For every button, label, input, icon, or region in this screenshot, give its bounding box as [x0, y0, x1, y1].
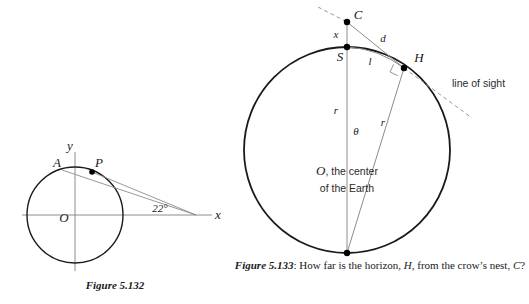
segment-label-r-radial: r [381, 116, 386, 128]
right-angle-marker [390, 64, 398, 75]
figure-5-133-caption-sep: : [294, 259, 297, 271]
figure-5-132-caption-label: Figure 5.132 [86, 279, 145, 291]
figure-5-133-caption-text-4: ? [520, 259, 525, 271]
figure-5-132-caption: Figure 5.132 [40, 278, 190, 293]
point-dot-s [344, 44, 350, 50]
figure-5-133-caption-text-1: How far is the horizon, [299, 259, 401, 271]
figure-page: y x A P O 22° C S H x d [0, 0, 529, 304]
segment-d-line [347, 22, 404, 68]
center-of-earth-label-line1: O, the center [316, 163, 378, 178]
segment-label-r-vertical: r [334, 104, 339, 116]
center-of-earth-label-rest: , the center [325, 165, 378, 177]
segment-label-l: l [368, 55, 371, 67]
line-of-sight-label: line of sight [452, 77, 505, 89]
figure-5-133-caption-text-2: , from the crow’s [412, 259, 487, 271]
figure-5-133-caption: Figure 5.133: How far is the horizon, H,… [232, 258, 528, 273]
segment-label-x: x [333, 28, 339, 40]
point-dot-o [344, 250, 350, 256]
segment-label-d: d [380, 32, 386, 44]
point-label-c: C [354, 7, 363, 22]
figure-5-133-caption-text-3: nest, [490, 259, 510, 271]
point-dot-c [344, 19, 350, 25]
figure-5-133-caption-var-h: H [404, 259, 412, 271]
center-of-earth-label-line2: of the Earth [320, 182, 374, 194]
figure-5-133-caption-prefix: Figure 5.133 [235, 259, 294, 271]
angle-label-theta: θ [353, 125, 359, 137]
point-label-h: H [413, 50, 424, 65]
segment-r-radial-line [347, 68, 404, 253]
point-dot-h [401, 65, 407, 71]
line-of-sight-dashed-lower [404, 68, 472, 118]
point-label-s: S [337, 49, 344, 64]
line-of-sight-dashed-upper [318, 7, 347, 22]
